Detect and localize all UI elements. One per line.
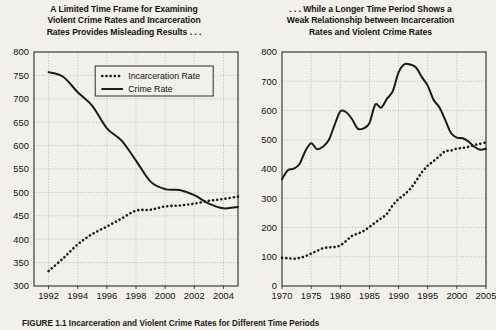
y-axis-tick-label: 700 (13, 93, 29, 104)
x-axis-tick-label: 1985 (359, 290, 380, 301)
panel-title-left-line-3: Rates Provides Misleading Results . . . (0, 27, 248, 38)
x-axis-tick-label: 1970 (272, 290, 293, 301)
chart-svg: 0100200300400500600700800197019751980198… (248, 44, 496, 312)
x-axis-tick-label: 2000 (446, 290, 467, 301)
x-axis-tick-label: 1980 (330, 290, 351, 301)
y-axis-tick-label: 400 (13, 234, 29, 245)
chart-panel-left: A Limited Time Frame for Examining Viole… (0, 0, 248, 312)
y-axis-tick-label: 500 (13, 187, 29, 198)
y-axis-tick-label: 350 (13, 257, 29, 268)
y-axis-tick-label: 600 (261, 105, 277, 116)
x-axis-tick-label: 2005 (476, 290, 496, 301)
x-axis-tick-label: 1975 (301, 290, 322, 301)
y-axis-tick-label: 800 (13, 46, 29, 57)
y-axis-tick-label: 550 (13, 163, 29, 174)
y-axis-tick-label: 200 (261, 222, 277, 233)
panel-title-left-line-2: Violent Crime Rates and Incarceration (0, 15, 248, 26)
y-axis-tick-label: 700 (261, 76, 277, 87)
panel-title-right: . . . While a Longer Time Period Shows a… (248, 4, 493, 38)
y-axis-tick-label: 800 (261, 46, 277, 57)
chart-svg: 3003504004505005506006507007508001992199… (0, 44, 248, 312)
x-axis-tick-label: 1994 (67, 290, 88, 301)
y-axis-tick-label: 500 (261, 134, 277, 145)
y-axis-tick-label: 600 (13, 140, 29, 151)
panel-title-right-line-2: Weak Relationship between Incarceration (248, 15, 493, 26)
x-axis-tick-label: 1992 (38, 290, 59, 301)
x-axis-tick-label: 2004 (213, 290, 234, 301)
y-axis-tick-label: 300 (13, 280, 29, 291)
y-axis-tick-label: 400 (261, 163, 277, 174)
figure-caption: FIGURE 1.1 Incarceration and Violent Cri… (22, 319, 319, 328)
plot-area-left: 3003504004505005506006507007508001992199… (0, 44, 248, 312)
chart-panel-right: . . . While a Longer Time Period Shows a… (248, 0, 493, 312)
panel-title-right-line-1: . . . While a Longer Time Period Shows a (248, 4, 493, 15)
y-axis-tick-label: 450 (13, 210, 29, 221)
plot-area-right: 0100200300400500600700800197019751980198… (248, 44, 493, 312)
x-axis-tick-label: 1995 (417, 290, 438, 301)
y-axis-tick-label: 750 (13, 70, 29, 81)
data-series-line (282, 142, 486, 258)
data-series-line (49, 197, 238, 271)
y-axis-tick-label: 100 (261, 251, 277, 262)
x-axis-tick-label: 1996 (96, 290, 117, 301)
legend-label: Crime Rate (128, 84, 173, 94)
y-axis-tick-label: 300 (261, 193, 277, 204)
x-axis-tick-label: 1998 (126, 290, 147, 301)
x-axis-tick-label: 2002 (184, 290, 205, 301)
x-axis-tick-label: 2000 (155, 290, 176, 301)
legend-label: Incarceration Rate (128, 71, 200, 81)
x-axis-tick-label: 1990 (388, 290, 409, 301)
y-axis-tick-label: 650 (13, 117, 29, 128)
panel-title-left-line-1: A Limited Time Frame for Examining (0, 4, 248, 15)
panel-title-left: A Limited Time Frame for Examining Viole… (0, 4, 248, 38)
panel-title-right-line-3: Rates and Violent Crime Rates (248, 27, 493, 38)
